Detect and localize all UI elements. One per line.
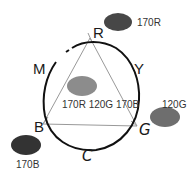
arc-label-c: C [82,149,92,164]
swatch-blue [11,135,41,155]
swatch-green [150,107,180,127]
circle-gap-stroke [66,50,69,52]
color-diagram: R B G M Y C 170R 170R 120G 170B 120G 170… [0,0,195,178]
swatch-center [67,76,97,96]
arc-label-m: M [33,61,46,76]
vertex-label-r: R [93,25,104,40]
vertex-label-b: B [34,119,44,134]
swatch-label-center: 170R 120G 170B [62,100,139,110]
swatch-label-red: 170R [137,18,161,28]
arc-label-y: Y [134,61,144,76]
swatch-label-blue: 170B [16,160,39,170]
vertex-label-g: G [139,123,151,138]
swatch-red [104,13,132,31]
swatch-label-green: 120G [162,100,186,110]
